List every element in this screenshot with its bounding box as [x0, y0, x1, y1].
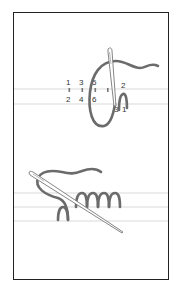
- label-2: 2: [66, 95, 71, 104]
- label-6: 6: [92, 95, 97, 104]
- guide-lines-bottom: [14, 193, 168, 221]
- label-1: 1: [66, 78, 71, 87]
- needle-icon: [108, 48, 116, 106]
- label-4: 4: [79, 95, 84, 104]
- thread-step-1: [90, 61, 158, 126]
- blanket-stitch-diagram: 1 3 5 2 4 6 2 3 1: [0, 0, 177, 289]
- thread-step-2: [37, 169, 120, 220]
- label-3: 3: [79, 78, 84, 87]
- needle-label-2: 2: [121, 81, 126, 90]
